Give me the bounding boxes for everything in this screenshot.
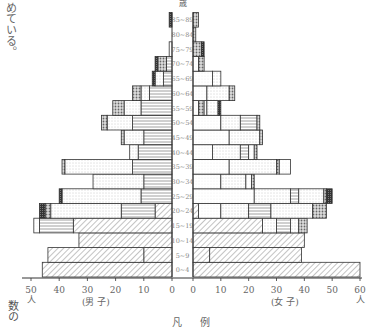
bar-female-35~39 <box>229 159 276 174</box>
age-label: 70~74 <box>172 60 194 68</box>
bar-female-40~44 <box>212 145 240 160</box>
bar-female-0~4 <box>193 262 360 277</box>
age-label: 85~89 <box>172 16 194 24</box>
bar-male-50~54 <box>102 115 108 130</box>
bar-male-15~19 <box>39 218 73 233</box>
age-label: 30~34 <box>172 178 194 186</box>
bar-female-5~9 <box>193 248 210 263</box>
bar-male-20~24 <box>155 204 172 219</box>
age-label: 15~19 <box>172 222 194 230</box>
bar-male-5~9 <box>144 248 172 263</box>
bar-male-20~24 <box>45 204 51 219</box>
bar-male-70~74 <box>158 57 166 72</box>
bar-female-15~19 <box>193 218 263 233</box>
bar-male-25~29 <box>141 189 172 204</box>
bar-male-25~29 <box>59 189 62 204</box>
bar-male-70~74 <box>155 57 158 72</box>
bar-female-40~44 <box>254 145 257 160</box>
age-column: 0~45~910~1415~1920~2425~2930~3435~3940~4… <box>172 0 194 277</box>
bar-female-45~49 <box>229 130 260 145</box>
tick-male: 50 <box>25 285 37 295</box>
bar-male-20~24 <box>51 204 122 219</box>
age-label: 75~79 <box>172 46 194 54</box>
bar-female-15~19 <box>277 218 291 233</box>
bar-female-40~44 <box>249 145 255 160</box>
legend-title: 凡例 <box>172 314 228 328</box>
bar-male-45~49 <box>144 130 172 145</box>
bar-female-20~24 <box>313 204 327 219</box>
bar-female-30~34 <box>246 174 252 189</box>
bar-female-25~29 <box>324 189 327 204</box>
bar-female-25~29 <box>254 189 290 204</box>
bar-female-20~24 <box>221 204 249 219</box>
bar-female-60~64 <box>207 86 229 101</box>
bar-female-5~9 <box>210 248 302 263</box>
bar-female-50~54 <box>240 115 257 130</box>
bar-female-55~59 <box>204 101 207 116</box>
bar-female-20~24 <box>249 204 271 219</box>
tick-female: 20 <box>243 285 255 295</box>
unit-label-female: 人 <box>356 295 365 305</box>
bar-female-55~59 <box>207 101 218 116</box>
bar-female-35~39 <box>277 159 280 174</box>
bar-female-40~44 <box>240 145 248 160</box>
tick-female: 40 <box>299 285 311 295</box>
bar-male-10~14 <box>79 233 172 248</box>
bar-female-30~34 <box>193 174 221 189</box>
age-label: 80~84 <box>172 31 194 39</box>
bar-female-60~64 <box>193 86 207 101</box>
bar-female-55~59 <box>199 101 205 116</box>
bar-female-15~19 <box>263 218 277 233</box>
bar-male-20~24 <box>121 204 155 219</box>
age-label: 10~14 <box>172 237 194 245</box>
bar-male-5~9 <box>48 248 144 263</box>
x-label-female: (女 子) <box>271 296 299 307</box>
tick-male: 40 <box>53 285 65 295</box>
bar-female-25~29 <box>327 189 333 204</box>
bar-female-20~24 <box>193 204 199 219</box>
bar-male-55~59 <box>113 101 124 116</box>
tick-female: 0 <box>190 285 196 295</box>
bar-female-60~64 <box>229 86 235 101</box>
bar-male-60~64 <box>141 86 149 101</box>
bar-female-50~54 <box>193 115 221 130</box>
tick-female: 10 <box>215 285 227 295</box>
bar-male-35~39 <box>62 159 65 174</box>
bar-female-35~39 <box>279 159 290 174</box>
tick-male: 20 <box>110 285 122 295</box>
bar-male-30~34 <box>144 174 172 189</box>
bar-female-65~69 <box>193 71 212 86</box>
age-label: 45~49 <box>172 134 194 142</box>
bar-female-65~69 <box>212 71 220 86</box>
bar-female-30~34 <box>221 174 246 189</box>
bar-male-55~59 <box>124 101 141 116</box>
age-label: 20~24 <box>172 207 194 215</box>
bar-female-55~59 <box>193 101 199 116</box>
bar-female-25~29 <box>299 189 324 204</box>
bar-female-45~49 <box>260 130 263 145</box>
bar-male-35~39 <box>133 159 172 174</box>
tick-female: 50 <box>326 285 338 295</box>
x-axis: 504030201000102030405060人人(男 子)(女 子) <box>22 278 366 307</box>
bar-female-40~44 <box>193 145 212 160</box>
age-label: 0~4 <box>176 266 190 274</box>
bar-female-25~29 <box>193 189 254 204</box>
bar-male-55~59 <box>141 101 172 116</box>
bar-male-20~24 <box>39 204 45 219</box>
bar-male-65~69 <box>152 71 155 86</box>
bar-male-50~54 <box>107 115 132 130</box>
tick-male: 0 <box>169 285 175 295</box>
bar-female-70~74 <box>199 57 205 72</box>
bar-male-60~64 <box>149 86 172 101</box>
unit-label-male: 人 <box>27 295 36 305</box>
bar-female-15~19 <box>290 218 298 233</box>
tick-male: 10 <box>138 285 150 295</box>
age-label: 25~29 <box>172 193 194 201</box>
bar-female-50~54 <box>221 115 240 130</box>
age-label: 40~44 <box>172 149 194 157</box>
age-label: 5~9 <box>176 252 190 260</box>
bar-male-25~29 <box>62 189 141 204</box>
bar-male-40~44 <box>138 145 172 160</box>
bar-female-50~54 <box>257 115 260 130</box>
bar-female-75~79 <box>201 42 204 57</box>
